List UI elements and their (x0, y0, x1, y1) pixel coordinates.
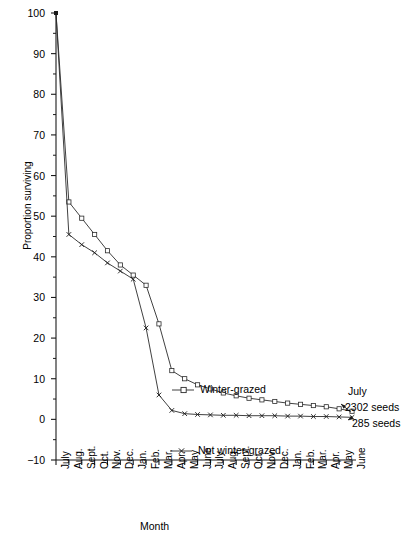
x-tick-label: Mar. (317, 450, 328, 469)
x-tick-label: June (356, 447, 367, 469)
series-winter-grazed (54, 11, 354, 413)
x-tick-label: Nov. (111, 449, 122, 469)
x-tick-label: Dec. (124, 448, 135, 469)
legend-label-winter-grazed: Winter-grazed (200, 383, 266, 395)
x-tick-label: Apr. (330, 451, 341, 469)
legend-label-not-winter-grazed: Not winter-grazed (198, 444, 281, 456)
x-tick-label: Oct. (99, 451, 110, 469)
x-tick-label: Feb. (150, 449, 161, 469)
x-tick-label: Jan. (137, 450, 148, 469)
x-tick-label: Sept. (86, 446, 97, 469)
plot-area (0, 0, 415, 552)
x-tick-label: Aug. (73, 448, 84, 469)
x-tick-label: July (60, 451, 71, 469)
x-tick-label: Mar. (163, 450, 174, 469)
x-tick-label: May (343, 450, 354, 469)
chart-figure: Proportion surviving 1009080706050403020… (0, 0, 415, 552)
series-not-winter-grazed (54, 11, 354, 420)
legend-symbol-winter-grazed (172, 387, 194, 392)
x-tick-label: Feb. (305, 449, 316, 469)
annotation-285-seeds: 285 seeds (352, 417, 400, 429)
x-tick-label: Apr. (176, 451, 187, 469)
annotation-2302-seeds: 2302 seeds (345, 401, 399, 413)
x-axis-title: Month (140, 520, 169, 532)
x-tick-label: Jan. (292, 450, 303, 469)
annotation-july: July (348, 385, 367, 397)
